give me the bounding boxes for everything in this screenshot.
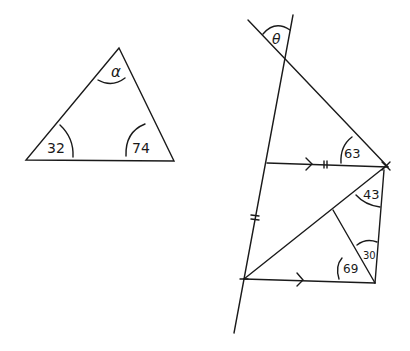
label-theta: θ bbox=[272, 31, 281, 47]
geometry-diagram: α 32 74 θ 63 43 30 69 bbox=[0, 0, 410, 351]
label-32: 32 bbox=[47, 140, 65, 156]
angle-arc-69 bbox=[338, 258, 342, 279]
right-figure bbox=[234, 15, 390, 333]
transversal-line bbox=[234, 15, 293, 333]
angle-arc-30 bbox=[357, 241, 377, 245]
label-alpha: α bbox=[111, 63, 121, 81]
label-30: 30 bbox=[363, 250, 376, 261]
parallel-arrow-bottom bbox=[297, 273, 303, 286]
lower-parallel-line bbox=[244, 279, 375, 283]
label-69: 69 bbox=[343, 262, 358, 276]
label-43: 43 bbox=[363, 187, 380, 202]
segment-lx bbox=[244, 166, 386, 279]
equal-mark-side bbox=[251, 215, 259, 216]
label-74: 74 bbox=[132, 140, 150, 156]
label-63: 63 bbox=[344, 146, 361, 161]
